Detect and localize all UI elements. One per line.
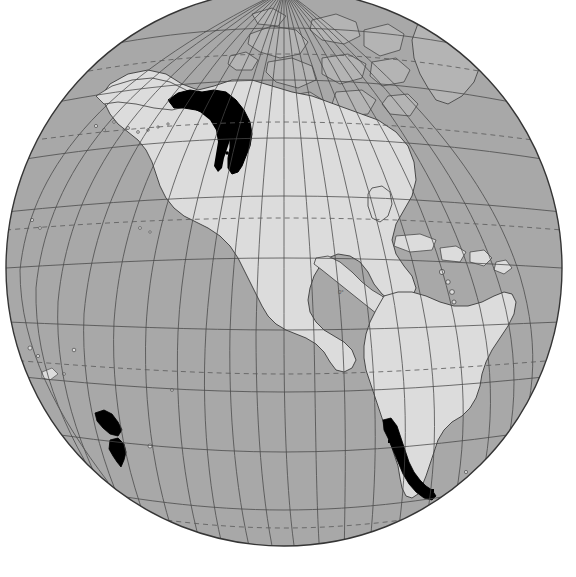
equator-degree-label: 0°: [338, 289, 344, 295]
globe-map-canvas[interactable]: 0°: [0, 0, 576, 577]
map-figure: Global distribution map on an orthograph…: [0, 0, 576, 577]
